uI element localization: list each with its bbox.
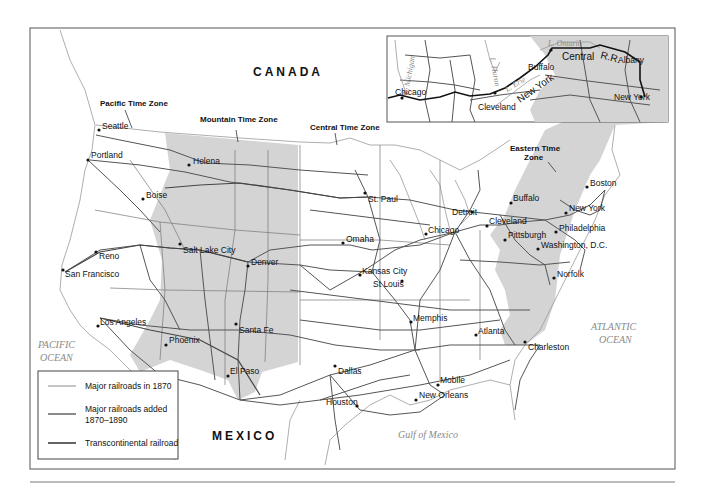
city-label-pittsburgh: Pittsburgh xyxy=(508,230,547,240)
city-label-kansas-city: Kansas City xyxy=(362,266,408,276)
eastern-time-zone-label-1: Eastern Time xyxy=(510,144,561,153)
city-label-boston: Boston xyxy=(590,178,617,188)
city-label-mobile: Mobile xyxy=(440,375,465,385)
city-label-memphis: Memphis xyxy=(413,313,447,323)
city-label-el-paso: El Paso xyxy=(230,366,260,376)
pacific-label-1: PACIFIC xyxy=(37,339,75,350)
city-label-st-paul: St. Paul xyxy=(368,194,398,204)
pacific-label-2: OCEAN xyxy=(40,352,74,363)
pacific-time-zone-label: Pacific Time Zone xyxy=(100,99,168,108)
city-label-philadelphia: Philadelphia xyxy=(559,223,606,233)
city-label-buffalo: Buffalo xyxy=(513,193,540,203)
city-label-helena: Helena xyxy=(193,156,220,166)
city-label-st-louis: St Louis xyxy=(373,279,404,289)
city-label-detroit: Detroit xyxy=(452,207,478,217)
city-label-charleston: Charleston xyxy=(528,342,569,352)
gulf-label: Gulf of Mexico xyxy=(398,429,458,440)
inset-rr-label-central: Central xyxy=(562,51,594,62)
inset-lake-ontario-label: L. Ontario xyxy=(547,39,582,48)
city-label-atlanta: Atlanta xyxy=(478,326,505,336)
atlantic-label-1: ATLANTIC xyxy=(590,321,637,332)
city-label-washington-dc: Washington, D.C. xyxy=(541,240,607,250)
legend-label-added-2: 1870–1890 xyxy=(85,415,128,425)
mexico-label: MEXICO xyxy=(212,429,277,443)
legend-label-added-1: Major railroads added xyxy=(85,404,167,414)
eastern-time-zone-label-2: Zone xyxy=(524,153,544,162)
city-label-dallas: Dallas xyxy=(338,366,362,376)
city-label-santa-fe: Santa Fe xyxy=(239,325,274,335)
mountain-time-zone-label: Mountain Time Zone xyxy=(200,115,278,124)
city-label-san-francisco: San Francisco xyxy=(65,269,120,279)
legend-label-1870: Major railroads in 1870 xyxy=(85,381,172,391)
inset-map xyxy=(387,36,668,122)
legend-label-transcontinental: Transcontinental railroad xyxy=(85,438,179,448)
city-label-boise: Boise xyxy=(146,190,168,200)
city-label-los-angeles: Los Angeles xyxy=(100,317,146,327)
city-label-denver: Denver xyxy=(251,257,279,267)
city-label-chicago: Chicago xyxy=(428,225,459,235)
inset-city-chicago: Chicago xyxy=(395,87,426,97)
inset-city-buffalo: Buffalo xyxy=(528,62,555,72)
railroad-map: CANADA MEXICO PACIFIC OCEAN ATLANTIC OCE… xyxy=(0,0,701,491)
canada-label: CANADA xyxy=(253,65,323,79)
city-label-salt-lake-city: Salt Lake City xyxy=(183,245,236,255)
city-label-omaha: Omaha xyxy=(346,234,374,244)
atlantic-label-2: OCEAN xyxy=(599,334,633,345)
inset-city-cleveland: Cleveland xyxy=(478,102,516,112)
inset-city-new-york: New York xyxy=(614,92,651,102)
city-label-norfolk: Norfolk xyxy=(557,269,585,279)
city-label-new-orleans: New Orleans xyxy=(419,390,468,400)
inset-city-albany: Albany xyxy=(618,55,645,65)
city-label-portland: Portland xyxy=(91,150,123,160)
city-label-reno: Reno xyxy=(99,251,120,261)
city-label-phoenix: Phoenix xyxy=(169,335,200,345)
central-time-zone-label: Central Time Zone xyxy=(310,123,380,132)
city-label-houston: Houston xyxy=(326,397,358,407)
city-label-seattle: Seattle xyxy=(102,121,129,131)
city-label-cleveland: Cleveland xyxy=(489,216,527,226)
city-label-new-york: New York xyxy=(569,203,606,213)
